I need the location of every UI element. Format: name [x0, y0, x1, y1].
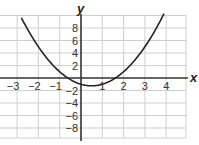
x-axis-label: x — [189, 70, 198, 85]
y-tick-label: −2 — [65, 85, 78, 97]
grid-lines — [0, 16, 186, 139]
x-tick-label: −1 — [49, 80, 62, 92]
y-axis-label: y — [76, 1, 85, 16]
axes — [0, 14, 188, 141]
y-tick-label: −4 — [65, 97, 78, 109]
coordinate-plane: −3−2−11234 8642−2−4−6−8 x y — [0, 0, 199, 145]
y-tick-label: −8 — [65, 122, 78, 134]
x-tick-label: 2 — [121, 80, 127, 92]
x-tick-label: −3 — [7, 80, 20, 92]
y-tick-label: 4 — [72, 47, 78, 59]
y-tick-label: 2 — [72, 60, 78, 72]
y-tick-label: 8 — [72, 22, 78, 34]
y-tick-label: 6 — [72, 35, 78, 47]
x-tick-label: 1 — [99, 80, 105, 92]
x-tick-label: −2 — [28, 80, 41, 92]
y-tick-label: −6 — [65, 110, 78, 122]
x-tick-label: 3 — [142, 80, 148, 92]
x-tick-label: 4 — [163, 80, 169, 92]
parabola-curve — [21, 14, 164, 86]
